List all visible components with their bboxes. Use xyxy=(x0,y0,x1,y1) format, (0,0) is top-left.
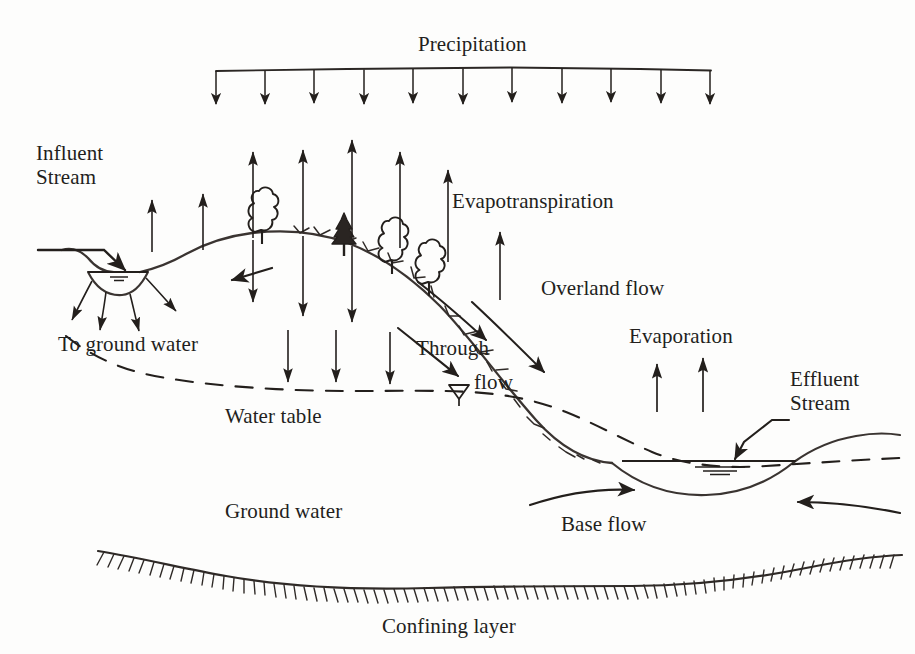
effluent-stream-label-line1: Effluent xyxy=(790,367,859,391)
overland-flow-arrow xyxy=(418,282,486,340)
evapotranspiration-label: Evapotranspiration xyxy=(452,190,614,213)
surface-runoff-arrow xyxy=(232,268,272,280)
influent-stream-label: InfluentStream xyxy=(36,142,103,189)
effluent-stream-leader xyxy=(735,420,789,459)
confining-layer-group xyxy=(97,551,902,603)
precipitation-arrows xyxy=(216,68,710,104)
seepage-arrow xyxy=(72,281,92,320)
water-table-triangle-icon xyxy=(449,385,469,406)
influent-water-symbol xyxy=(110,277,128,281)
effluent-water-symbol xyxy=(695,467,745,475)
to-ground-water-label: To ground water xyxy=(58,333,198,356)
precipitation-group xyxy=(216,68,711,105)
evapotranspiration-arrows xyxy=(152,140,500,300)
through-flow-label-line2: flow xyxy=(474,371,513,394)
seepage-arrow xyxy=(100,292,106,330)
influent-stream-label-line2: Stream xyxy=(36,165,96,189)
influent-stream-group xyxy=(38,250,176,331)
water-table-label: Water table xyxy=(225,405,322,428)
seepage-arrow xyxy=(130,294,139,331)
confining-layer-label: Confining layer xyxy=(382,615,516,638)
ground-water-label: Ground water xyxy=(225,500,342,523)
base-flow-label: Base flow xyxy=(561,513,646,536)
infiltration-arrows xyxy=(253,236,390,384)
evaporation-arrows xyxy=(657,358,703,412)
hydrologic-cycle-figure: Precipitation InfluentStream Evapotransp… xyxy=(0,0,915,654)
base-flow-arrow xyxy=(530,490,634,505)
vegetation-group xyxy=(248,187,445,296)
evaporation-label: Evaporation xyxy=(629,325,733,348)
overland-flow-label: Overland flow xyxy=(541,277,664,300)
diagram-canvas xyxy=(0,0,915,654)
base-flow-arrow xyxy=(798,502,900,513)
effluent-stream-label-line2: Stream xyxy=(790,391,850,415)
influent-stream-label-line1: Influent xyxy=(36,141,103,165)
precipitation-label: Precipitation xyxy=(418,33,527,56)
deciduous-tree xyxy=(378,217,408,274)
effluent-stream-label: EffluentStream xyxy=(790,368,859,415)
seepage-arrow xyxy=(146,278,176,311)
confining-layer-hachures xyxy=(97,552,894,603)
land-surface-profile xyxy=(62,231,900,495)
influent-channel-bed xyxy=(88,272,148,295)
confining-layer-line xyxy=(98,551,902,589)
hillslope-profile xyxy=(140,231,612,463)
through-flow-label-line1: Through xyxy=(416,337,489,360)
base-flow-arrows xyxy=(530,490,900,513)
